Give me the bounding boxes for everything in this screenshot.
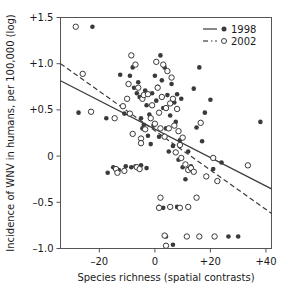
data-point-2002	[179, 155, 184, 160]
data-point-2002	[169, 75, 174, 80]
figure-scatter-wnv-species-richness: –1.0–0.50+0.5+1.0+1.5 –200+20+40 Species…	[0, 0, 288, 299]
data-point-2002	[215, 178, 220, 183]
x-axis-title: Species richness (spatial contrasts)	[77, 272, 254, 283]
data-point-2002	[80, 71, 85, 76]
legend-marker-2002	[222, 39, 227, 44]
data-point-2002	[194, 195, 199, 200]
data-point-2002	[129, 53, 134, 58]
data-point-1998	[258, 120, 263, 125]
data-point-2002	[115, 170, 120, 175]
data-point-2002	[173, 150, 178, 155]
data-point-1998	[154, 98, 159, 103]
data-point-1998	[179, 97, 184, 102]
data-point-2002	[170, 96, 175, 101]
data-point-1998	[236, 234, 241, 239]
data-point-2002	[152, 121, 157, 126]
data-point-2002	[155, 85, 160, 90]
data-point-2002	[184, 234, 189, 239]
data-point-1998	[211, 167, 216, 172]
data-point-2002	[210, 155, 215, 160]
data-point-1998	[146, 133, 151, 138]
data-point-1998	[203, 110, 208, 115]
data-point-2002	[197, 234, 202, 239]
data-point-2002	[212, 234, 217, 239]
data-point-2002	[165, 68, 170, 73]
legend-label-2002: 2002	[231, 36, 256, 47]
data-point-2002	[154, 59, 159, 64]
data-point-2002	[149, 103, 154, 108]
data-point-2002	[172, 123, 177, 128]
x-tick-label: –20	[91, 256, 109, 267]
data-point-1998	[186, 149, 191, 154]
data-point-1998	[104, 116, 109, 121]
data-point-2002	[174, 106, 179, 111]
data-point-1998	[168, 113, 173, 118]
data-point-2002	[177, 142, 182, 147]
data-point-1998	[158, 53, 163, 58]
data-point-2002	[204, 174, 209, 179]
data-point-1998	[128, 73, 133, 78]
data-point-2002	[88, 109, 93, 114]
data-point-1998	[160, 78, 165, 83]
data-point-2002	[158, 195, 163, 200]
data-point-1998	[191, 86, 196, 91]
data-point-2002	[133, 62, 138, 67]
data-point-2002	[120, 104, 125, 109]
data-point-1998	[175, 92, 180, 97]
data-point-2002	[245, 163, 250, 168]
data-point-2002	[73, 24, 78, 29]
data-point-1998	[219, 160, 224, 165]
data-point-1998	[169, 82, 174, 87]
data-point-1998	[135, 91, 140, 96]
data-point-2002	[130, 131, 135, 136]
data-point-1998	[194, 125, 199, 130]
data-point-2002	[163, 105, 168, 110]
x-tick-label: 0	[152, 256, 158, 267]
data-point-1998	[118, 72, 123, 77]
y-tick-label: 0	[47, 151, 53, 162]
data-point-2002	[167, 204, 172, 209]
data-point-1998	[200, 139, 205, 144]
data-point-1998	[171, 144, 176, 149]
data-point-1998	[165, 93, 170, 98]
scatter-plot-canvas: –1.0–0.50+0.5+1.0+1.5 –200+20+40 Species…	[0, 0, 288, 299]
data-point-1998	[166, 149, 171, 154]
data-point-2002	[159, 94, 164, 99]
data-point-2002	[142, 127, 147, 132]
data-point-2002	[186, 204, 191, 209]
data-point-1998	[122, 111, 127, 116]
data-point-1998	[136, 80, 141, 85]
data-point-1998	[90, 24, 95, 29]
data-point-1998	[139, 116, 144, 121]
data-point-2002	[183, 162, 188, 167]
data-point-2002	[156, 110, 161, 115]
data-point-1998	[76, 110, 81, 115]
data-point-2002	[163, 243, 168, 248]
data-point-2002	[138, 140, 143, 145]
data-point-2002	[162, 233, 167, 238]
data-point-2002	[122, 168, 127, 173]
x-tick-label: +40	[255, 256, 276, 267]
data-point-1998	[105, 170, 110, 175]
data-point-1998	[171, 243, 176, 248]
data-point-2002	[162, 134, 167, 139]
y-tick-label: +1.0	[29, 58, 53, 69]
data-point-2002	[124, 96, 129, 101]
y-tick-label: +0.5	[29, 104, 53, 115]
legend-label-1998: 1998	[231, 24, 256, 35]
data-point-2002	[126, 81, 131, 86]
data-point-1998	[183, 177, 188, 182]
data-point-1998	[208, 97, 213, 102]
data-point-1998	[129, 165, 134, 170]
data-point-2002	[127, 111, 132, 116]
y-tick-label: –1.0	[33, 243, 54, 254]
data-point-2002	[180, 135, 185, 140]
data-point-2002	[161, 62, 166, 67]
data-point-1998	[144, 166, 149, 171]
data-point-1998	[148, 142, 153, 147]
data-point-2002	[156, 205, 161, 210]
data-point-2002	[158, 126, 163, 131]
x-tick-label: +20	[200, 256, 221, 267]
data-point-2002	[177, 205, 182, 210]
y-tick-label: –0.5	[33, 197, 54, 208]
